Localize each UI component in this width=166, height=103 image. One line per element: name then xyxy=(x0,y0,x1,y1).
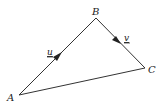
vector-label-u: u xyxy=(47,47,53,57)
vector-triangle-diagram: B A C u v xyxy=(0,0,166,103)
edge-bc xyxy=(96,18,145,68)
arrow-v-icon xyxy=(112,36,121,44)
vertex-label-b: B xyxy=(91,6,99,17)
vector-label-v: v xyxy=(124,33,129,43)
edge-ac xyxy=(19,68,145,95)
vertex-label-c: C xyxy=(148,64,156,75)
vertex-label-a: A xyxy=(6,92,14,103)
